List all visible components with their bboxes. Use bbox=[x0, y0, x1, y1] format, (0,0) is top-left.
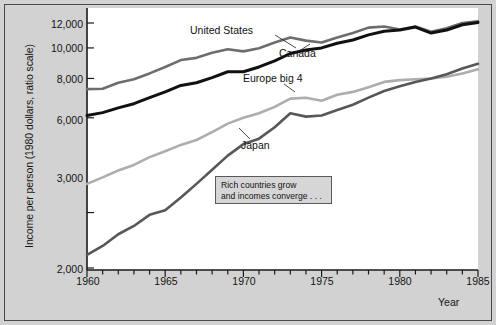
leader-line-japan bbox=[239, 128, 250, 139]
callout-box: Rich countries grow and incomes converge… bbox=[215, 176, 332, 204]
y-tick-label: 2,000 bbox=[27, 263, 83, 275]
x-axis-title: Year bbox=[438, 296, 459, 308]
leader-line-europe-big-4 bbox=[284, 84, 295, 92]
x-tick-labels: 1960 1965 1970 1975 1980 1985 bbox=[0, 275, 496, 293]
y-tick-label: 8,000 bbox=[27, 73, 83, 85]
series-label-europe-big-4: Europe big 4 bbox=[243, 72, 303, 84]
y-tick-label: 10,000 bbox=[27, 42, 83, 54]
y-axis-title: Income per person (1980 dollars, ratio s… bbox=[23, 21, 35, 271]
x-tick-label: 1960 bbox=[65, 275, 111, 287]
y-tick-label: 12,000 bbox=[27, 18, 83, 30]
callout-line-1: Rich countries grow bbox=[221, 180, 331, 191]
x-tick-label: 1985 bbox=[455, 275, 496, 287]
chart-figure: 12,000 10,000 8,000 6,000 3,000 2,000 19… bbox=[0, 0, 496, 325]
y-tick-marks bbox=[87, 23, 94, 268]
x-tick-label: 1975 bbox=[299, 275, 345, 287]
series-line-europe-big-4 bbox=[87, 69, 478, 184]
x-tick-label: 1970 bbox=[221, 275, 267, 287]
series-label-united-states: United States bbox=[190, 24, 253, 36]
x-tick-label: 1965 bbox=[143, 275, 189, 287]
series-label-canada: Canada bbox=[279, 47, 316, 59]
series-label-japan: Japan bbox=[241, 139, 270, 151]
callout-line-2: and incomes converge . . . bbox=[221, 191, 331, 202]
y-tick-label: 6,000 bbox=[27, 114, 83, 126]
y-tick-label: 3,000 bbox=[27, 172, 83, 184]
x-tick-label: 1980 bbox=[377, 275, 423, 287]
